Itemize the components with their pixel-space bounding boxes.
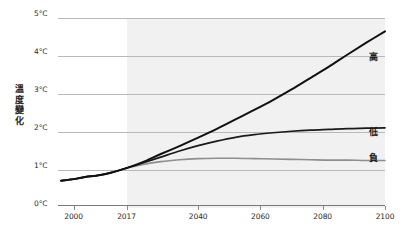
series-lines [0, 0, 415, 238]
series-label: 高 [369, 50, 378, 63]
series-label: 負 [369, 151, 378, 164]
series-line [61, 158, 385, 180]
series-label: 低 [369, 125, 378, 138]
temperature-change-line-chart: 溫 度 變 化 0°C1°C2°C3°C4°C5°C 2000201720402… [0, 0, 415, 238]
